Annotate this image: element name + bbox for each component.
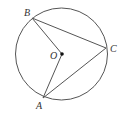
label-C: C <box>110 43 117 54</box>
center-point-O <box>60 52 64 56</box>
label-B: B <box>24 7 30 18</box>
label-O: O <box>50 50 57 61</box>
label-A: A <box>35 100 43 111</box>
geometry-figure: B C O A <box>0 0 121 122</box>
diagram-canvas: B C O A <box>0 0 121 122</box>
segment-BO <box>32 18 62 54</box>
